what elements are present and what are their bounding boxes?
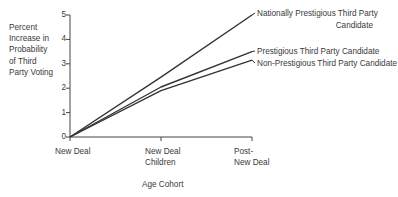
y-axis-title-line: of Third xyxy=(9,56,53,67)
y-tick-label: 5 xyxy=(60,9,66,20)
y-tick-label: 3 xyxy=(60,58,66,69)
y-tick-label: 0 xyxy=(60,131,66,142)
x-tick-label-line: New Deal xyxy=(145,146,181,157)
series-line xyxy=(70,52,252,137)
y-tick-label: 2 xyxy=(60,82,66,93)
series-leader xyxy=(252,51,255,52)
x-tick-label-line: Post- xyxy=(234,146,270,157)
y-axis-title-line: Percent xyxy=(9,22,53,33)
series-label-nationally-prestigious-cont: Candidate xyxy=(257,20,373,31)
y-tick-label: 4 xyxy=(60,33,66,44)
series-line xyxy=(70,60,252,137)
y-tick-label: 1 xyxy=(60,107,66,118)
x-tick-label-new-deal-children: New Deal Children xyxy=(145,146,181,168)
y-axis-title: Percent Increase in Probability of Third… xyxy=(9,22,53,78)
y-axis-title-line: Probability xyxy=(9,44,53,55)
y-axis-title-line: Party Voting xyxy=(9,67,53,78)
series-leader xyxy=(252,60,255,63)
series-lines xyxy=(70,13,255,137)
x-tick-label-new-deal: New Deal xyxy=(55,146,91,157)
x-tick-label-line: New Deal xyxy=(55,146,91,157)
x-tick-label-line: New Deal xyxy=(234,157,270,168)
x-tick-label-post-new-deal: Post- New Deal xyxy=(234,146,270,168)
series-label-non-prestigious: Non-Prestigious Third Party Candidate xyxy=(257,58,397,69)
series-label-prestigious: Prestigious Third Party Candidate xyxy=(257,46,379,57)
y-axis-title-line: Increase in xyxy=(9,33,53,44)
series-label-nationally-prestigious: Nationally Prestigious Third Party xyxy=(257,8,378,19)
series-line xyxy=(70,15,252,137)
x-axis-title: Age Cohort xyxy=(142,179,183,190)
series-leader xyxy=(252,13,255,15)
x-tick-label-line: Children xyxy=(145,157,181,168)
